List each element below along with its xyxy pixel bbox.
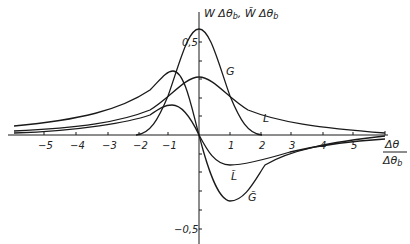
- label-L: L: [263, 112, 269, 125]
- label-G-tilde: G̃: [248, 191, 257, 204]
- svg-text:−1: −1: [162, 140, 177, 151]
- y-axis-label: W Δθb, W̃ Δθb: [204, 7, 278, 21]
- x-axis-label-num: Δθ: [384, 138, 400, 151]
- chart-canvas: W Δθb, W̃ Δθb 0,5 −0,5 Δθ Δθb −5 −4 −3 −…: [0, 0, 410, 244]
- svg-text:2: 2: [259, 140, 265, 151]
- label-L-tilde: L̃: [231, 170, 237, 183]
- svg-text:3: 3: [289, 140, 295, 151]
- svg-text:−4: −4: [70, 140, 85, 151]
- svg-text:1: 1: [228, 140, 234, 151]
- y-tick-label-pos: 0,5: [182, 37, 198, 48]
- y-tick-label-neg: −0,5: [174, 224, 198, 235]
- svg-text:−5: −5: [38, 140, 53, 151]
- svg-text:5: 5: [351, 140, 357, 151]
- x-axis-label-den: Δθb: [382, 154, 402, 168]
- svg-text:−3: −3: [102, 140, 117, 151]
- svg-text:4: 4: [320, 140, 326, 151]
- x-ticks: [44, 131, 385, 135]
- x-tick-labels: −5 −4 −3 −2 −1 1 2 3 4 5: [38, 140, 357, 151]
- svg-text:−2: −2: [133, 140, 148, 151]
- label-G: G: [226, 65, 235, 78]
